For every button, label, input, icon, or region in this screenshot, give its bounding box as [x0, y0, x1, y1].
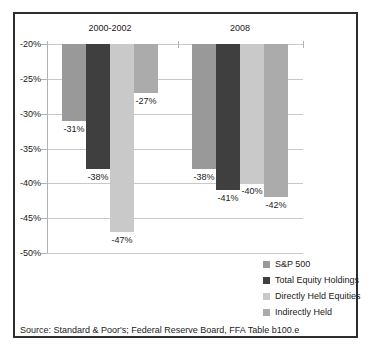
bar — [216, 44, 240, 190]
legend: S&P 500Total Equity HoldingsDirectly Hel… — [263, 256, 361, 320]
legend-swatch-icon — [263, 309, 270, 316]
legend-swatch-icon — [263, 293, 270, 300]
y-axis-tick-label: -25% — [8, 74, 41, 84]
bar — [264, 44, 288, 197]
category-axis-tick — [47, 41, 48, 48]
legend-row: Total Equity Holdings — [263, 272, 361, 288]
legend-label: S&P 500 — [275, 259, 310, 269]
legend-row: S&P 500 — [263, 256, 361, 272]
y-axis-tick — [41, 253, 47, 254]
legend-label: Total Equity Holdings — [275, 275, 359, 285]
bar-value-label: -47% — [106, 235, 138, 245]
y-axis-tick-label: -40% — [8, 178, 41, 188]
legend-row: Indirectly Held — [263, 304, 361, 320]
category-axis-tick — [178, 41, 179, 48]
legend-row: Directly Held Equities — [263, 288, 361, 304]
y-axis-tick-label: -30% — [8, 109, 41, 119]
y-axis-line — [47, 44, 48, 253]
gridline — [47, 253, 303, 254]
bar-value-label: -27% — [130, 96, 162, 106]
bar — [110, 44, 134, 232]
y-axis-tick-label: -50% — [8, 248, 41, 258]
category-axis-tick — [303, 41, 304, 48]
legend-label: Indirectly Held — [275, 307, 332, 317]
legend-swatch-icon — [263, 261, 270, 268]
legend-label: Directly Held Equities — [275, 291, 361, 301]
bar-value-label: -42% — [260, 200, 292, 210]
source-note: Source: Standard & Poor's; Federal Reser… — [20, 325, 299, 335]
legend-swatch-icon — [263, 277, 270, 284]
bar — [86, 44, 110, 169]
gridline — [47, 218, 303, 219]
bar — [134, 44, 158, 93]
bar — [240, 44, 264, 183]
category-label: 2000-2002 — [70, 23, 150, 33]
screenshot: -20%-25%-30%-35%-40%-45%-50%2000-2002200… — [0, 0, 372, 354]
y-axis-tick-label: -20% — [8, 39, 41, 49]
y-axis-tick-label: -45% — [8, 213, 41, 223]
bar — [192, 44, 216, 169]
y-axis-tick-label: -35% — [8, 144, 41, 154]
bar — [62, 44, 86, 121]
category-label: 2008 — [200, 23, 280, 33]
